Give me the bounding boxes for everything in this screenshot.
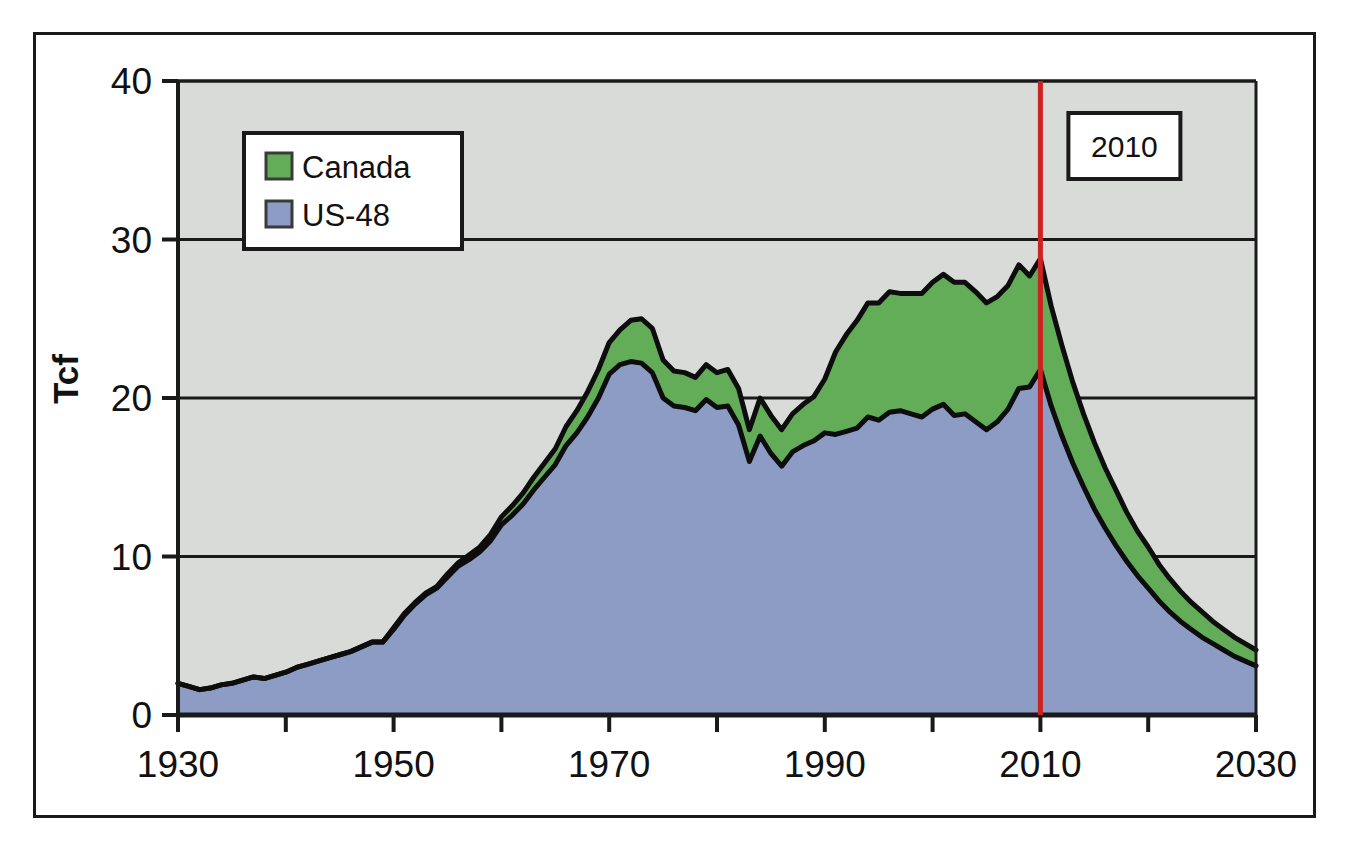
x-tick-label-1950: 1950 [352,744,434,785]
y-tick-label-0: 0 [131,695,152,736]
legend-swatch-canada [266,153,292,179]
figure-frame: 010203040193019501970199020102030 Tcf Ca… [33,32,1316,818]
y-tick-label-40: 40 [111,61,152,102]
x-tick-label-1930: 1930 [137,744,219,785]
y-tick-label-20: 20 [111,378,152,419]
x-tick-label-2010: 2010 [999,744,1081,785]
cropped-caption-remnant [0,0,1349,14]
x-tick-label-1990: 1990 [784,744,866,785]
chart-legend: CanadaUS-48 [244,133,462,249]
x-tick-label-1970: 1970 [568,744,650,785]
annotation-label: 2010 [1091,130,1158,163]
y-axis-title: Tcf [46,354,85,404]
area-chart: 010203040193019501970199020102030 Tcf Ca… [36,35,1313,815]
y-tick-label-30: 30 [111,220,152,261]
x-tick-label-2030: 2030 [1215,744,1297,785]
annotation-box-2010: 2010 [1068,113,1180,179]
y-tick-label-10: 10 [111,537,152,578]
y-axis-title-text: Tcf [46,354,85,404]
legend-swatch-us-48 [266,201,292,227]
legend-label-us-48: US-48 [302,198,390,233]
legend-label-canada: Canada [302,150,411,185]
